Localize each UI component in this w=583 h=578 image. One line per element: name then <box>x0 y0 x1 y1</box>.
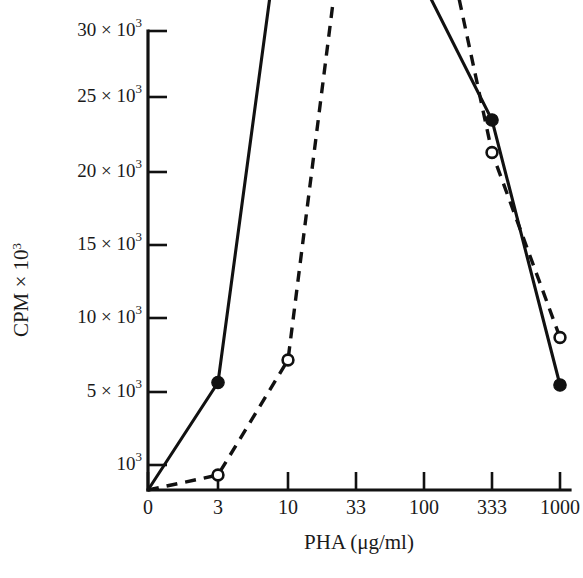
y-tick-label-20000: 20 × 103 <box>77 156 142 181</box>
y-tick-label-15000: 15 × 103 <box>77 229 142 254</box>
x-tick-label-33: 33 <box>346 496 366 518</box>
data-point <box>555 332 566 343</box>
x-tick-label-333: 333 <box>477 496 507 518</box>
data-point <box>487 147 498 158</box>
series-solid-filled-circles <box>148 0 566 490</box>
y-tick-label-25000: 25 × 103 <box>77 81 142 106</box>
x-axis-title: PHA (μg/ml) <box>304 530 414 554</box>
chart-canvas: 103 5 × 103 10 × 103 15 × 103 20 × 103 2… <box>0 0 583 578</box>
y-tick-label-30000: 30 × 103 <box>77 15 142 40</box>
x-axis-tick-labels: 0 3 10 33 100 333 1000 <box>143 496 580 518</box>
series-solid-line <box>148 0 560 490</box>
x-tick-label-10: 10 <box>278 496 298 518</box>
y-axis-ticks <box>148 31 167 465</box>
x-tick-label-0: 0 <box>143 496 153 518</box>
chart-figure: 103 5 × 103 10 × 103 15 × 103 20 × 103 2… <box>0 0 583 578</box>
series-dashed-open-circles <box>148 0 565 490</box>
y-tick-label-10000: 10 × 103 <box>77 302 142 327</box>
data-point <box>486 114 498 126</box>
data-point <box>212 376 224 388</box>
y-axis-title: CPM × 103 <box>9 243 34 337</box>
data-point <box>554 379 566 391</box>
x-axis-ticks <box>148 472 560 490</box>
x-tick-label-100: 100 <box>409 496 439 518</box>
data-point <box>213 470 224 481</box>
y-tick-label-1000: 103 <box>117 449 143 474</box>
series-dashed-markers <box>213 0 566 480</box>
series-solid-markers <box>212 0 566 391</box>
y-axis-tick-labels: 103 5 × 103 10 × 103 15 × 103 20 × 103 2… <box>77 15 142 474</box>
data-point <box>283 355 294 366</box>
axes-group <box>148 31 570 490</box>
x-tick-label-3: 3 <box>213 496 223 518</box>
y-tick-label-5000: 5 × 103 <box>87 376 142 401</box>
x-tick-label-1000: 1000 <box>540 496 580 518</box>
series-dashed-line <box>148 0 560 490</box>
